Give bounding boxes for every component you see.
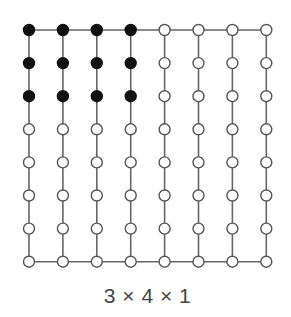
empty-node xyxy=(261,157,272,168)
empty-node xyxy=(91,124,102,135)
empty-node xyxy=(91,157,102,168)
empty-node xyxy=(193,25,204,36)
empty-node xyxy=(125,190,136,201)
empty-node xyxy=(227,58,238,69)
filled-node xyxy=(125,25,136,36)
empty-node xyxy=(57,256,68,267)
empty-node xyxy=(261,256,272,267)
empty-node xyxy=(261,25,272,36)
empty-node xyxy=(125,223,136,234)
empty-node xyxy=(193,223,204,234)
diagram-caption: 3 × 4 × 1 xyxy=(0,284,291,308)
filled-node xyxy=(91,58,102,69)
empty-node xyxy=(227,223,238,234)
empty-node xyxy=(24,124,35,135)
empty-node xyxy=(227,256,238,267)
empty-node xyxy=(261,124,272,135)
empty-node xyxy=(159,223,170,234)
empty-node xyxy=(159,190,170,201)
empty-node xyxy=(193,91,204,102)
empty-node xyxy=(57,223,68,234)
empty-node xyxy=(159,25,170,36)
empty-node xyxy=(261,223,272,234)
empty-node xyxy=(91,190,102,201)
filled-node xyxy=(91,25,102,36)
empty-node xyxy=(193,256,204,267)
filled-node xyxy=(57,91,68,102)
empty-node xyxy=(193,58,204,69)
empty-node xyxy=(24,190,35,201)
empty-node xyxy=(57,157,68,168)
empty-node xyxy=(57,190,68,201)
empty-node xyxy=(91,256,102,267)
empty-node xyxy=(159,157,170,168)
lattice-diagram xyxy=(0,0,291,317)
empty-node xyxy=(24,223,35,234)
empty-node xyxy=(227,91,238,102)
empty-node xyxy=(125,256,136,267)
filled-node xyxy=(91,91,102,102)
empty-node xyxy=(261,190,272,201)
filled-node xyxy=(125,91,136,102)
filled-node xyxy=(57,25,68,36)
empty-node xyxy=(125,157,136,168)
empty-node xyxy=(57,124,68,135)
filled-node xyxy=(24,91,35,102)
empty-node xyxy=(227,190,238,201)
empty-node xyxy=(24,157,35,168)
empty-node xyxy=(125,124,136,135)
filled-node xyxy=(24,58,35,69)
empty-node xyxy=(227,25,238,36)
empty-node xyxy=(193,157,204,168)
empty-node xyxy=(159,256,170,267)
empty-node xyxy=(193,124,204,135)
empty-node xyxy=(261,58,272,69)
empty-node xyxy=(261,91,272,102)
filled-node xyxy=(57,58,68,69)
empty-node xyxy=(91,223,102,234)
empty-node xyxy=(159,91,170,102)
filled-node xyxy=(24,25,35,36)
empty-node xyxy=(159,124,170,135)
empty-node xyxy=(24,256,35,267)
empty-node xyxy=(193,190,204,201)
filled-node xyxy=(125,58,136,69)
empty-node xyxy=(227,157,238,168)
empty-node xyxy=(227,124,238,135)
empty-node xyxy=(159,58,170,69)
